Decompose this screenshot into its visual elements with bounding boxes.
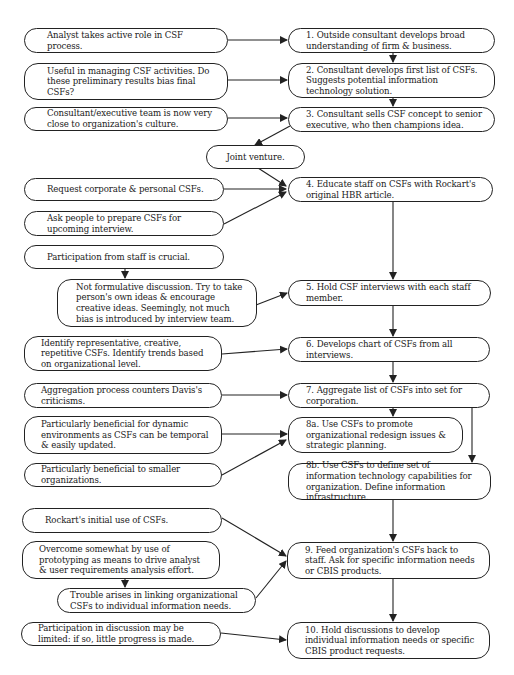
step-6-label: 6. Develops chart of CSFs from all inter…: [306, 339, 479, 360]
note-rockart-initial: Rockart's initial use of CSFs.: [22, 508, 222, 533]
step-8b-label: 8b. Use CSFs to define set of informatio…: [306, 460, 480, 502]
step-10-label: 10. Hold discussions to develop individu…: [305, 625, 479, 657]
note-not-formulative-label: Not formulative discussion. Try to take …: [76, 282, 246, 324]
note-dynamic-environments: Particularly beneficial for dynamic envi…: [24, 416, 222, 454]
note-identify-trends-label: Identify representative, creative, repet…: [41, 338, 211, 370]
note-prototyping-label: Overcome somewhat by use of prototyping …: [39, 544, 209, 576]
note-trouble-linking-label: Trouble arises in linking organizational…: [70, 590, 245, 611]
step-5-label: 5. Hold CSF interviews with each staff m…: [306, 282, 480, 303]
step-4-node: 4. Educate staff on CSFs with Rockart's …: [288, 177, 493, 202]
note-managing-csf-label: Useful in managing CSF activities. Do th…: [47, 66, 217, 98]
step-8a-label: 8a. Use CSFs to promote organizational r…: [306, 419, 452, 451]
note-request-csfs: Request corporate & personal CSFs.: [24, 178, 224, 201]
step-1-node: 1. Outside consultant develops broad und…: [288, 28, 495, 53]
note-team-culture-label: Consultant/executive team is now very cl…: [47, 108, 217, 129]
note-prepare-csfs-label: Ask people to prepare CSFs for upcoming …: [47, 213, 213, 234]
note-managing-csf: Useful in managing CSF activities. Do th…: [24, 63, 228, 100]
step-8a-node: 8a. Use CSFs to promote organizational r…: [288, 417, 463, 453]
step-9-node: 9. Feed organization's CSFs back to staf…: [287, 542, 490, 579]
note-team-culture: Consultant/executive team is now very cl…: [24, 107, 228, 131]
note-smaller-orgs: Particularly beneficial to smaller organ…: [24, 463, 222, 487]
step-7-label: 7. Aggregate list of CSFs into set for c…: [306, 385, 479, 406]
note-prepare-csfs: Ask people to prepare CSFs for upcoming …: [24, 211, 224, 236]
note-participation-staff-label: Participation from staff is crucial.: [47, 252, 190, 263]
step-7-node: 7. Aggregate list of CSFs into set for c…: [288, 383, 490, 408]
step-3-label: 3. Consultant sells CSF concept to senio…: [306, 109, 484, 130]
note-aggregation-davis-label: Aggregation process counters Davis's cri…: [41, 385, 211, 406]
step-8b-node: 8b. Use CSFs to define set of informatio…: [288, 463, 491, 500]
step-3-node: 3. Consultant sells CSF concept to senio…: [288, 107, 495, 132]
note-dynamic-environments-label: Particularly beneficial for dynamic envi…: [41, 419, 211, 451]
note-joint-venture-label: Joint venture.: [226, 152, 284, 163]
step-5-node: 5. Hold CSF interviews with each staff m…: [288, 280, 491, 306]
csf-process-flowchart: 1. Outside consultant develops broad und…: [0, 0, 514, 675]
note-prototyping: Overcome somewhat by use of prototyping …: [22, 541, 220, 579]
step-1-label: 1. Outside consultant develops broad und…: [306, 30, 484, 51]
step-6-node: 6. Develops chart of CSFs from all inter…: [288, 337, 490, 362]
step-2-node: 2. Consultant develops first list of CSF…: [288, 63, 495, 98]
note-joint-venture: Joint venture.: [206, 145, 305, 169]
note-request-csfs-label: Request corporate & personal CSFs.: [47, 184, 204, 195]
note-participation-staff: Participation from staff is crucial.: [24, 245, 224, 269]
note-analyst-role-label: Analyst takes active role in CSF process…: [47, 30, 217, 51]
note-smaller-orgs-label: Particularly beneficial to smaller organ…: [41, 464, 211, 485]
note-participation-discussion: Participation in discussion may be limit…: [21, 622, 221, 646]
note-trouble-linking: Trouble arises in linking organizational…: [57, 588, 256, 613]
step-9-label: 9. Feed organization's CSFs back to staf…: [305, 545, 479, 577]
note-not-formulative: Not formulative discussion. Try to take …: [57, 279, 257, 327]
step-2-label: 2. Consultant develops first list of CSF…: [306, 65, 484, 97]
step-10-node: 10. Hold discussions to develop individu…: [287, 622, 490, 659]
note-rockart-initial-label: Rockart's initial use of CSFs.: [45, 515, 168, 526]
note-aggregation-davis: Aggregation process counters Davis's cri…: [24, 383, 222, 408]
note-participation-discussion-label: Participation in discussion may be limit…: [38, 623, 210, 644]
note-analyst-role: Analyst takes active role in CSF process…: [24, 28, 228, 53]
step-4-label: 4. Educate staff on CSFs with Rockart's …: [306, 179, 482, 200]
note-identify-trends: Identify representative, creative, repet…: [24, 336, 222, 371]
